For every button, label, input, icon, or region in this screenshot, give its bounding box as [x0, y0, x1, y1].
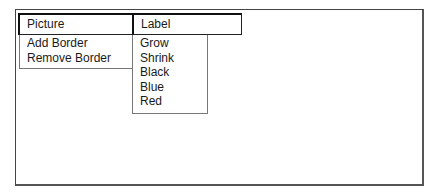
- menu-item-shrink[interactable]: Shrink: [133, 51, 207, 66]
- menu-item-grow[interactable]: Grow: [133, 36, 207, 51]
- menu-picture[interactable]: Picture: [18, 13, 135, 35]
- menu-item-red[interactable]: Red: [133, 94, 207, 109]
- label-dropdown: Grow Shrink Black Blue Red: [132, 35, 208, 114]
- menu-item-add-border[interactable]: Add Border: [20, 36, 133, 51]
- menu-item-black[interactable]: Black: [133, 65, 207, 80]
- menu-item-remove-border[interactable]: Remove Border: [20, 51, 133, 66]
- menu-item-blue[interactable]: Blue: [133, 80, 207, 95]
- picture-dropdown: Add Border Remove Border: [19, 35, 134, 69]
- menu-label[interactable]: Label: [132, 13, 242, 35]
